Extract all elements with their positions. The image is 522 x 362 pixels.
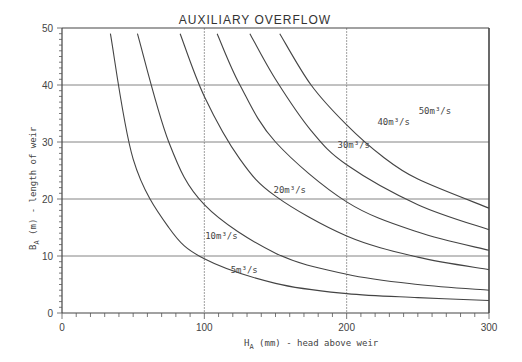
y-tick-label: 30 [42,137,54,148]
y-tick-label: 40 [42,80,54,91]
curve-label: 40m³/s [377,117,410,127]
curve-label: 10m³/s [205,231,238,241]
flow-curve [137,34,489,291]
x-tick-label: 100 [196,322,213,333]
chart-title: AUXILIARY OVERFLOW [179,13,331,27]
y-tick-label: 10 [42,251,54,262]
curve-label: 5m³/s [231,265,258,275]
flow-curve [250,34,489,230]
chart-canvas: 010203040500100200300AUXILIARY OVERFLOWH… [0,0,522,362]
y-axis-label: BA (m) - length of weir [28,126,41,250]
y-tick-label: 0 [47,308,53,319]
x-tick-label: 300 [481,322,498,333]
y-tick-label: 50 [42,23,54,34]
y-tick-label: 20 [42,194,54,205]
x-tick-label: 0 [59,322,65,333]
curve-label: 30m³/s [338,140,371,150]
curve-label: 50m³/s [419,106,452,116]
x-tick-label: 200 [338,322,355,333]
x-axis-label: HA (mm) - head above weir [244,338,379,351]
curve-label: 20m³/s [273,185,306,195]
